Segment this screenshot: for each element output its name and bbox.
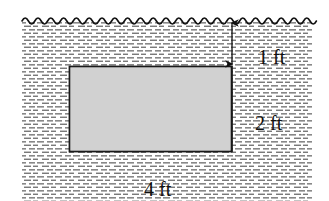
dimension-unit-1ft: ft: [268, 46, 285, 68]
dimension-value-4ft: 4: [144, 178, 154, 200]
dimension-label-4ft: 4ft: [124, 159, 171, 201]
dimension-label-2ft: 2ft: [235, 93, 282, 153]
dimension-unit-2ft: ft: [265, 112, 282, 134]
dimension-value-1ft: 1: [258, 46, 268, 68]
dimension-label-1ft: 1ft: [238, 27, 285, 87]
block-inner-texture: [71, 68, 231, 151]
figure-canvas: 1ft 2ft 4ft: [0, 0, 329, 201]
dimension-value-2ft: 2: [255, 112, 265, 134]
dimension-unit-4ft: ft: [154, 178, 171, 200]
